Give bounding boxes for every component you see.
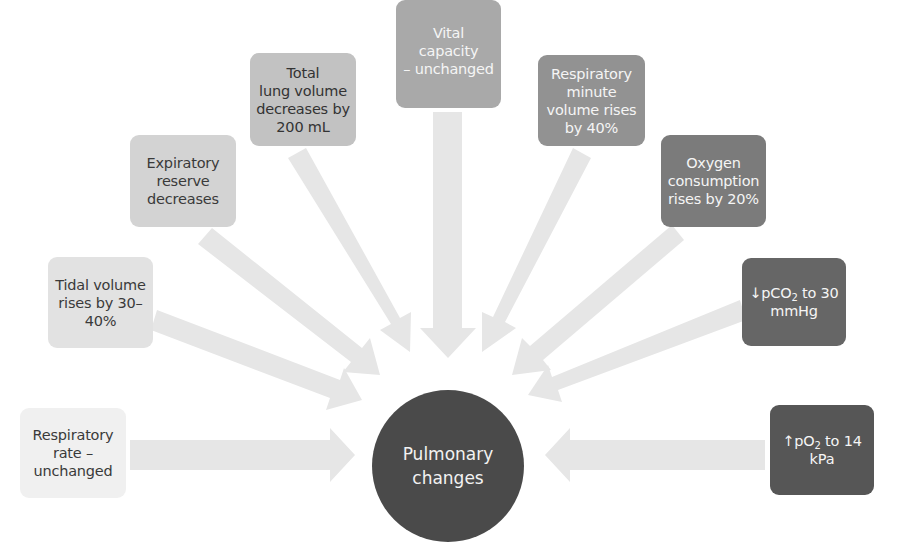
node-label: Respiratory rate – unchanged: [33, 426, 114, 480]
node-tidal-volume: Tidal volume rises by 30– 40%: [48, 257, 153, 348]
node-total-lung-volume: Total lung volume decreases by 200 mL: [250, 53, 356, 146]
node-label: Respiratory minute volume rises by 40%: [547, 65, 637, 137]
label-prefix: ↑pO: [782, 433, 814, 449]
arrow-pco2: [528, 300, 746, 402]
node-expiratory-reserve: Expiratory reserve decreases: [130, 135, 236, 227]
node-respiratory-rate: Respiratory rate – unchanged: [20, 408, 126, 498]
node-label: Expiratory reserve decreases: [147, 154, 220, 208]
arrow-vital-capacity: [420, 112, 476, 358]
node-label: Tidal volume rises by 30– 40%: [55, 276, 145, 330]
label-suffix: to 14 kPa: [810, 433, 862, 467]
node-label: ↑pO2 to 14 kPa: [782, 432, 861, 468]
node-label: Total lung volume decreases by 200 mL: [256, 64, 350, 136]
node-respiratory-minute-volume: Respiratory minute volume rises by 40%: [538, 55, 645, 146]
node-po2: ↑pO2 to 14 kPa: [770, 405, 874, 495]
node-label: Oxygen consumption rises by 20%: [668, 154, 760, 208]
node-label: Vital capacity – unchanged: [402, 24, 495, 78]
arrow-po2: [545, 428, 765, 482]
node-oxygen-consumption: Oxygen consumption rises by 20%: [661, 135, 766, 227]
node-label: ↓pCO2 to 30 mmHg: [749, 284, 838, 320]
label-prefix: ↓pCO: [749, 285, 791, 301]
arrow-respiratory-rate: [130, 428, 355, 482]
node-vital-capacity: Vital capacity – unchanged: [396, 0, 501, 108]
center-hub-pulmonary-changes: Pulmonary changes: [372, 390, 524, 542]
node-pco2: ↓pCO2 to 30 mmHg: [742, 258, 846, 346]
hub-label: Pulmonary changes: [403, 442, 494, 490]
